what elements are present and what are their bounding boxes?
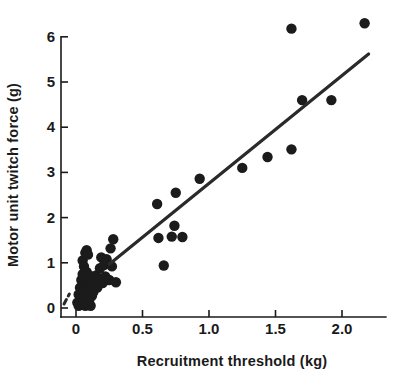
data-point bbox=[171, 188, 181, 198]
data-point bbox=[167, 231, 177, 241]
y-tick-label: 3 bbox=[47, 163, 55, 180]
y-axis: 0123456 bbox=[47, 28, 68, 317]
regression-line bbox=[109, 54, 368, 264]
data-point bbox=[108, 234, 118, 244]
x-tick-label: 0 bbox=[72, 320, 80, 337]
y-tick-label: 4 bbox=[47, 118, 56, 135]
y-tick-label: 5 bbox=[47, 73, 55, 90]
x-axis-ticks: 00.51.01.52.0 bbox=[72, 310, 353, 337]
x-axis-title: Recruitment threshold (kg) bbox=[137, 353, 328, 369]
data-point bbox=[83, 249, 93, 259]
data-points bbox=[72, 18, 370, 311]
data-point bbox=[326, 95, 336, 105]
data-point bbox=[262, 152, 272, 162]
data-point bbox=[85, 301, 95, 311]
x-tick-label: 1.0 bbox=[199, 320, 220, 337]
y-axis-title: Motor unit twitch force (g) bbox=[5, 83, 21, 267]
data-point bbox=[152, 199, 162, 209]
y-axis-ticks: 0123456 bbox=[47, 28, 68, 316]
x-axis: 00.51.01.52.0 bbox=[61, 310, 386, 337]
data-point bbox=[359, 18, 369, 28]
data-point bbox=[286, 23, 296, 33]
x-tick-label: 2.0 bbox=[332, 320, 353, 337]
y-tick-label: 6 bbox=[47, 28, 55, 45]
data-point bbox=[286, 144, 296, 154]
x-tick-label: 1.5 bbox=[265, 320, 286, 337]
y-tick-label: 2 bbox=[47, 209, 55, 226]
data-point bbox=[194, 174, 204, 184]
y-tick-label: 0 bbox=[47, 299, 55, 316]
data-point bbox=[153, 233, 163, 243]
x-tick-label: 0.5 bbox=[132, 320, 153, 337]
data-point bbox=[159, 260, 169, 270]
data-point bbox=[177, 232, 187, 242]
data-point bbox=[105, 243, 115, 253]
chart-figure: 0123456 00.51.01.52.0 Recruitment thresh… bbox=[0, 0, 404, 375]
y-tick-label: 1 bbox=[47, 254, 55, 271]
data-point bbox=[169, 221, 179, 231]
scatter-plot: 0123456 00.51.01.52.0 Recruitment thresh… bbox=[0, 0, 404, 375]
data-point bbox=[111, 277, 121, 287]
regression-line-extrapolation bbox=[64, 294, 69, 304]
data-point bbox=[237, 163, 247, 173]
